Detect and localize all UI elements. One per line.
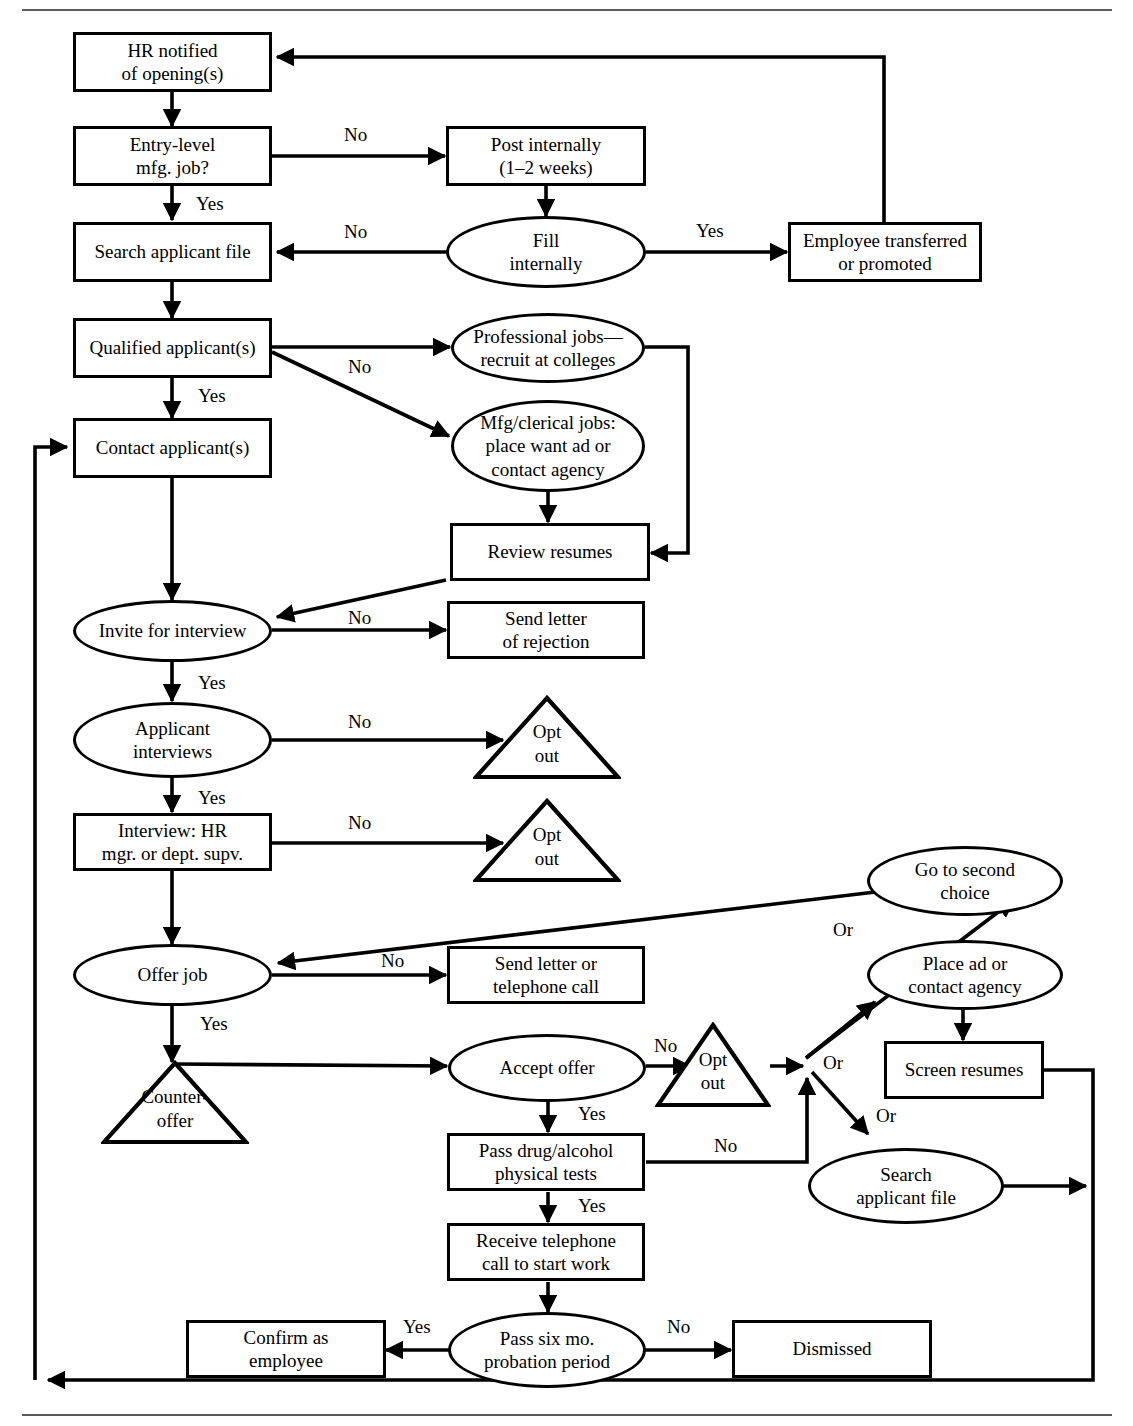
flowchart-page: HR notified of opening(s) Entry-level mf… xyxy=(0,0,1133,1426)
node-label: Opt out xyxy=(695,1048,732,1094)
node-accept-offer[interactable]: Accept offer xyxy=(448,1034,646,1102)
node-label: Employee transferred or promoted xyxy=(799,229,971,275)
node-receive-telephone-call[interactable]: Receive telephone call to start work xyxy=(447,1223,645,1281)
node-invite-for-interview[interactable]: Invite for interview xyxy=(73,600,272,662)
node-applicant-interviews[interactable]: Applicant interviews xyxy=(73,702,272,778)
node-qualified-applicants[interactable]: Qualified applicant(s) xyxy=(73,318,272,378)
node-label: Dismissed xyxy=(788,1337,875,1360)
node-go-to-second-choice[interactable]: Go to second choice xyxy=(867,846,1063,916)
edge-label-yes-applicant-int: Yes xyxy=(198,788,226,807)
node-label: Search applicant file xyxy=(852,1163,960,1209)
node-professional-jobs[interactable]: Professional jobs— recruit at colleges xyxy=(451,313,645,383)
node-label: Counter- offer xyxy=(137,1086,212,1132)
node-confirm-as-employee[interactable]: Confirm as employee xyxy=(186,1320,386,1378)
node-label: Fill internally xyxy=(506,229,587,275)
edge-label-yes-qualified: Yes xyxy=(198,386,226,405)
edge-label-or-3: Or xyxy=(876,1106,896,1125)
edge-label-yes-pass-drug: Yes xyxy=(578,1196,606,1215)
node-offer-job[interactable]: Offer job xyxy=(73,944,272,1006)
node-label: Send letter of rejection xyxy=(498,607,593,653)
edge-label-or-2: Or xyxy=(823,1053,843,1072)
node-contact-applicants[interactable]: Contact applicant(s) xyxy=(73,418,272,478)
node-label: Post internally (1–2 weeks) xyxy=(487,133,605,179)
edge-label-yes-fill-internally: Yes xyxy=(696,221,724,240)
edge-label-no-entry-level: No xyxy=(344,125,367,144)
node-opt-out-1[interactable]: Opt out xyxy=(473,695,621,780)
node-label: Accept offer xyxy=(495,1056,598,1079)
edge-label-no-interview-hr: No xyxy=(348,813,371,832)
node-probation-period[interactable]: Pass six mo. probation period xyxy=(448,1312,646,1388)
node-label: Opt out xyxy=(529,824,566,870)
node-label: Go to second choice xyxy=(911,858,1019,904)
node-label: Pass six mo. probation period xyxy=(480,1327,614,1373)
node-label: Mfg/clerical jobs: place want ad or cont… xyxy=(476,411,620,481)
node-pass-drug-alcohol[interactable]: Pass drug/alcohol physical tests xyxy=(447,1133,645,1191)
node-label: Search applicant file xyxy=(90,240,254,263)
node-label: HR notified of opening(s) xyxy=(118,39,228,85)
node-mfg-clerical-jobs[interactable]: Mfg/clerical jobs: place want ad or cont… xyxy=(451,400,645,492)
node-send-letter-rejection[interactable]: Send letter of rejection xyxy=(447,601,645,659)
edge-label-yes-invite: Yes xyxy=(198,673,226,692)
edge-label-no-offer-job: No xyxy=(381,951,404,970)
node-post-internally[interactable]: Post internally (1–2 weeks) xyxy=(446,126,646,186)
edge-label-no-probation: No xyxy=(667,1317,690,1336)
edge-label-or-1: Or xyxy=(833,920,853,939)
edge-label-no-qualified: No xyxy=(348,357,371,376)
node-label: Entry-level mfg. job? xyxy=(126,133,219,179)
node-label: Qualified applicant(s) xyxy=(85,336,259,359)
node-opt-out-3[interactable]: Opt out xyxy=(655,1022,771,1108)
node-opt-out-2[interactable]: Opt out xyxy=(473,798,621,883)
node-screen-resumes[interactable]: Screen resumes xyxy=(884,1041,1044,1099)
edge-label-no-invite: No xyxy=(348,608,371,627)
edge-label-yes-accept-offer: Yes xyxy=(578,1104,606,1123)
node-label: Receive telephone call to start work xyxy=(472,1229,620,1275)
node-send-letter-or-call[interactable]: Send letter or telephone call xyxy=(447,946,645,1004)
node-label: Confirm as employee xyxy=(240,1326,333,1372)
node-label: Review resumes xyxy=(483,540,616,563)
edge-label-yes-offer-job: Yes xyxy=(200,1014,228,1033)
node-entry-level[interactable]: Entry-level mfg. job? xyxy=(73,126,272,186)
node-label: Professional jobs— recruit at colleges xyxy=(469,325,626,371)
node-label: Screen resumes xyxy=(901,1058,1028,1081)
node-label: Applicant interviews xyxy=(129,717,216,763)
node-label: Offer job xyxy=(134,963,212,986)
node-label: Opt out xyxy=(529,721,566,767)
edge-label-no-applicant-int: No xyxy=(348,712,371,731)
node-label: Contact applicant(s) xyxy=(92,436,254,459)
node-dismissed[interactable]: Dismissed xyxy=(732,1320,932,1378)
edge-label-no-pass-drug: No xyxy=(714,1136,737,1155)
node-search-applicant-file-2[interactable]: Search applicant file xyxy=(808,1148,1004,1224)
edge-label-yes-entry-level: Yes xyxy=(196,194,224,213)
node-label: Pass drug/alcohol physical tests xyxy=(475,1139,618,1185)
edge-label-yes-probation: Yes xyxy=(403,1317,431,1336)
node-interview-hr[interactable]: Interview: HR mgr. or dept. supv. xyxy=(73,813,272,871)
node-employee-transferred[interactable]: Employee transferred or promoted xyxy=(788,222,982,282)
node-label: Interview: HR mgr. or dept. supv. xyxy=(98,819,247,865)
node-label: Place ad or contact agency xyxy=(904,952,1025,998)
node-counter-offer[interactable]: Counter- offer xyxy=(101,1060,249,1145)
node-label: Send letter or telephone call xyxy=(489,952,603,998)
node-search-applicant-file[interactable]: Search applicant file xyxy=(73,222,272,282)
node-review-resumes[interactable]: Review resumes xyxy=(450,523,650,581)
node-fill-internally[interactable]: Fill internally xyxy=(446,216,646,288)
node-label: Invite for interview xyxy=(95,619,251,642)
edge-label-no-fill-internally: No xyxy=(344,222,367,241)
node-hr-notified[interactable]: HR notified of opening(s) xyxy=(73,32,272,92)
node-place-ad-contact-agency[interactable]: Place ad or contact agency xyxy=(867,940,1063,1010)
